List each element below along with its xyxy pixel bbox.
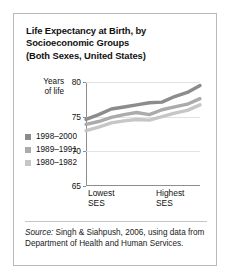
x-axis-label-highest: Highest SES [156,189,184,209]
source-note: Source: Singh & Siahpush, 2006, using da… [25,228,211,249]
title-line-1: Life Expectancy at Birth, by [26,25,206,37]
x-axis-label-highest-line-2: SES [156,199,184,209]
legend-item[interactable]: 1998–2000 [25,131,95,142]
y-axis-title-line-1: Years [22,77,64,87]
y-axis-tick-label: 80 [72,77,81,87]
legend-item[interactable]: 1980–1982 [25,157,95,168]
x-axis-label-lowest: Lowest SES [88,189,115,209]
source-divider [25,221,207,222]
legend-item[interactable]: 1989–1991 [25,144,95,155]
y-axis-tick-label: 65 [72,181,81,191]
series-layer [86,82,200,186]
y-axis-title: Years of life [22,77,64,96]
page-title: Life Expectancy at Birth, by Socioeconom… [26,25,206,62]
title-line-3: (Both Sexes, United States) [26,50,206,62]
x-axis-labels: Lowest SES Highest SES [86,189,208,213]
source-label: Source: [25,228,53,237]
y-axis-tick-label: 75 [72,112,81,122]
x-axis-label-lowest-line-2: SES [88,199,115,209]
legend-item-label: 1989–1991 [36,145,77,154]
figure-root: Life Expectancy at Birth, by Socioeconom… [0,0,230,279]
title-line-2: Socioeconomic Groups [26,37,206,49]
chart-canvas: 80757065 [86,82,200,186]
series-line [86,105,200,131]
figure-card: Life Expectancy at Birth, by Socioeconom… [13,13,217,266]
legend-swatch-icon [25,147,31,153]
chart-legend: 1998–20001989–19911980–1982 [25,131,95,170]
legend-item-label: 1980–1982 [36,158,77,167]
y-axis-title-line-2: of life [22,87,64,97]
legend-item-label: 1998–2000 [36,132,77,141]
legend-swatch-icon [25,160,31,166]
y-axis-tick-mark [83,186,86,187]
legend-swatch-icon [25,134,31,140]
